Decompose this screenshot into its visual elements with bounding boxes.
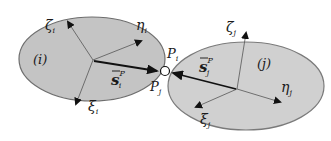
body-i-label: (i) [33,52,47,67]
body-j: (j) ζj ηj ξj sPj [168,19,324,130]
body-j-zeta-label: ζj [226,19,237,37]
body-i: (i) ζi ηi ξi sPi [19,17,165,116]
body-i-eta-label: ηi [136,17,147,35]
joint-label-pi: Pi [166,46,179,63]
body-j-ellipse [168,42,324,130]
body-j-label: (j) [257,56,271,71]
joint-point [161,67,170,76]
multibody-joint-diagram: (i) ζi ηi ξi sPi (j) ζj ηj ξj sPj Pi Pj [0,0,331,141]
body-i-zeta-label: ζi [45,17,56,35]
joint-label-pj: Pj [149,79,162,96]
